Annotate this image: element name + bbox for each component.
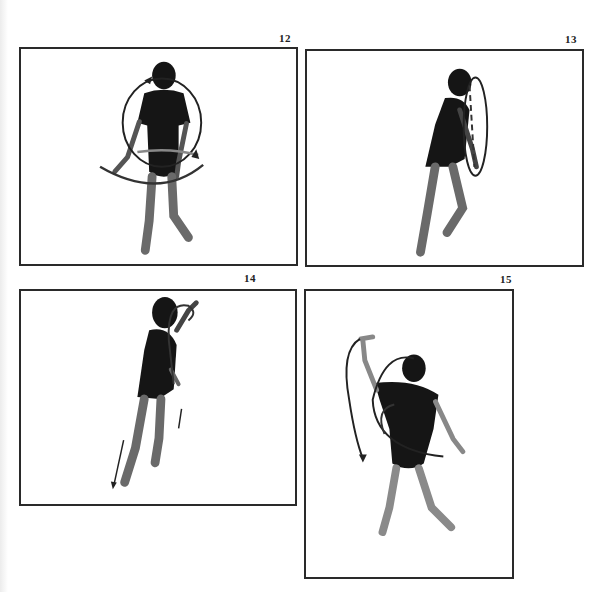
figure-frame-12 <box>19 47 298 266</box>
figure-number-12: 12 <box>279 32 291 44</box>
figure-frame-15 <box>304 289 514 579</box>
figure-number-13: 13 <box>565 33 577 45</box>
dancer-illustration-13 <box>307 51 582 265</box>
figure-frame-14 <box>19 289 297 506</box>
dancer-illustration-14 <box>21 291 295 504</box>
figure-number-14: 14 <box>244 272 256 284</box>
figure-frame-13 <box>305 49 584 267</box>
figure-number-15: 15 <box>500 273 512 285</box>
dancer-illustration-15 <box>306 291 512 577</box>
page-edge-shadow <box>0 0 8 592</box>
dancer-illustration-12 <box>21 49 296 264</box>
